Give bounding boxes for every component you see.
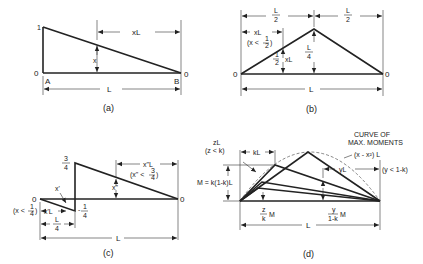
influence-line	[43, 27, 181, 73]
z-den: k	[262, 215, 266, 222]
label-zero-right: 0	[180, 195, 185, 204]
caption-a: (a)	[103, 103, 114, 113]
half-right-num: L	[346, 7, 350, 14]
bot-num: 1	[83, 203, 87, 210]
dim-xL: xL	[254, 29, 262, 36]
svg-text:1: 1	[265, 35, 269, 42]
label-B: B	[174, 77, 179, 86]
quarter-den: 4	[55, 225, 59, 232]
dim-L: L	[107, 85, 112, 94]
half-right-den: 2	[346, 16, 350, 23]
curve-title-2: MAX. MOMENTS	[348, 139, 403, 146]
curve-equation: (x - x²) L	[354, 151, 380, 159]
top-den: 4	[64, 164, 68, 171]
cond-z: (z < k)	[205, 147, 225, 155]
moment-label: M = k(1-k)L	[197, 179, 233, 187]
curve-title-1: CURVE OF	[354, 131, 390, 138]
label-x-prime: x'	[55, 185, 60, 192]
bot-sign: -	[78, 206, 81, 213]
bot-den: 4	[83, 212, 87, 219]
label-zero-left: 0	[34, 69, 39, 78]
dim-yL: yL	[339, 166, 347, 174]
label-zero-right: 0	[184, 70, 189, 79]
svg-text:3: 3	[151, 167, 155, 174]
ord-frac-den: 2	[275, 59, 279, 66]
panel-b: 0 0 L 2 L 2 xL (x < 1 2 ) 1 2 xL L 4 L (…	[233, 7, 390, 114]
half-left-num: L	[274, 7, 278, 14]
label-zero-left: 0	[233, 70, 238, 79]
cond-x: (x <	[247, 39, 259, 47]
caption-b: (b)	[306, 104, 317, 114]
peak-num: L	[307, 44, 311, 51]
svg-text:4: 4	[151, 174, 155, 181]
z-suffix: M	[269, 211, 275, 218]
cond1: (x <	[13, 207, 25, 215]
figure-svg: 1 0 0 A B x xL L (a) 0 0 L	[0, 0, 423, 264]
svg-text:1: 1	[30, 203, 34, 210]
label-x: x	[93, 57, 97, 64]
label-zero-right: 0	[385, 70, 390, 79]
caption-d: (d)	[303, 249, 314, 259]
dim-L: L	[309, 85, 314, 94]
y-den: 1-k	[328, 215, 338, 222]
dim-xpL: x'L	[44, 208, 53, 215]
top-num: 3	[64, 155, 68, 162]
panel-d: CURVE OF MAX. MOMENTS (x - x²) L zL (z <…	[197, 131, 408, 259]
svg-text:): )	[270, 39, 272, 47]
y-num: y	[332, 206, 336, 214]
influence-line-figure: 1 0 0 A B x xL L (a) 0 0 L	[0, 0, 423, 264]
cond-y: (y < 1-k)	[382, 166, 408, 174]
svg-text:): )	[35, 207, 37, 215]
dim-xL: xL	[132, 28, 141, 37]
svg-text:2: 2	[265, 42, 269, 49]
svg-text:4: 4	[30, 210, 34, 217]
cond2: (x" <	[130, 171, 144, 179]
caption-c: (c)	[103, 248, 114, 258]
influence-line	[241, 29, 383, 74]
dim-L: L	[116, 234, 121, 243]
z-num: z	[262, 206, 266, 213]
label-x-dprime: x"	[112, 184, 119, 191]
label-A: A	[45, 77, 51, 86]
panel-a: 1 0 0 A B x xL L (a)	[34, 20, 189, 113]
dim-L: L	[306, 221, 311, 230]
half-left-den: 2	[274, 16, 278, 23]
ord-frac-num: 1	[275, 51, 279, 58]
svg-text:): )	[156, 171, 158, 179]
quarter-num: L	[55, 216, 59, 223]
dim-kL: kL	[253, 149, 261, 156]
panel-c: 0 0 3 4 - 1 4 x' x" x'L x"L (x < 1 4 ) (…	[13, 155, 185, 258]
y-suffix: M	[340, 211, 346, 218]
label-one: 1	[37, 24, 41, 31]
ord-suffix: xL	[285, 56, 293, 63]
peak-den: 4	[307, 53, 311, 60]
dim-zL: zL	[213, 139, 221, 146]
